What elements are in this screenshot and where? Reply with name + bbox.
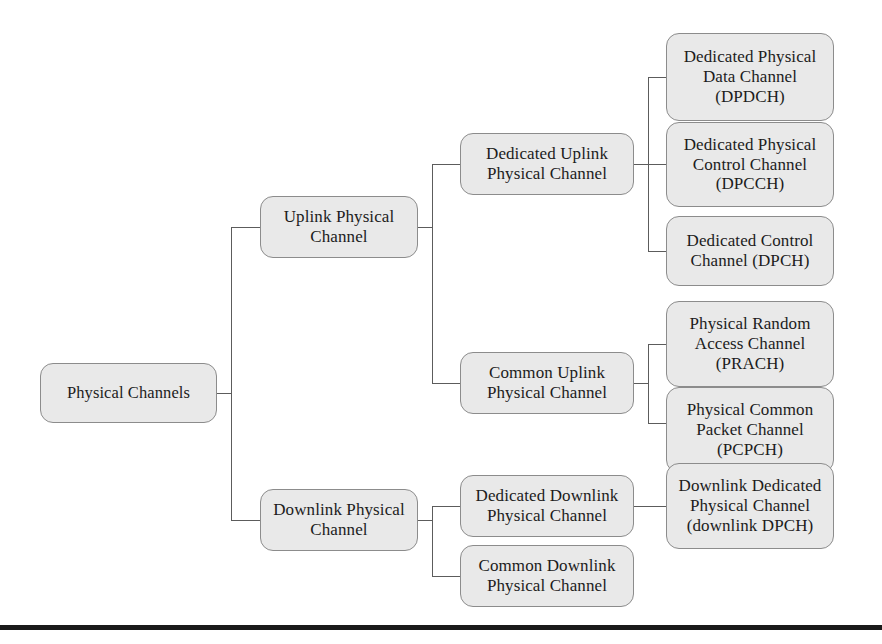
node-pcpch[interactable]: Physical Common Packet Channel (PCPCH): [666, 387, 834, 473]
connector-root-to-downlink: [231, 520, 261, 521]
node-label: Dedicated Physical Control Channel (DPCC…: [684, 135, 817, 194]
node-label: Downlink Physical Channel: [273, 500, 405, 539]
bottom-divider: [0, 625, 882, 630]
connector-root-trunk: [231, 227, 232, 521]
node-label: Dedicated Downlink Physical Channel: [476, 486, 619, 525]
connector-common-uplink-trunk: [648, 344, 649, 423]
node-label: Physical Channels: [67, 383, 190, 402]
node-physical-channels[interactable]: Physical Channels: [40, 363, 217, 423]
node-uplink-physical-channel[interactable]: Uplink Physical Channel: [260, 196, 418, 258]
connector-to-pcpch: [648, 423, 666, 424]
connector-root-to-uplink: [231, 227, 261, 228]
node-label: Common Downlink Physical Channel: [478, 556, 615, 595]
connector-uplink-to-dedicated: [432, 164, 460, 165]
diagram-canvas: Physical Channels Uplink Physical Channe…: [0, 0, 882, 644]
connector-downlink-trunk: [432, 506, 433, 576]
node-prach[interactable]: Physical Random Access Channel (PRACH): [666, 301, 834, 387]
node-label: Downlink Dedicated Physical Channel (dow…: [679, 476, 822, 535]
node-label: Common Uplink Physical Channel: [487, 363, 607, 402]
connector-uplink-trunk: [432, 164, 433, 383]
node-label: Dedicated Control Channel (DPCH): [687, 231, 814, 270]
node-label: Dedicated Physical Data Channel (DPDCH): [684, 47, 817, 106]
connector-downlink-stub: [417, 520, 433, 521]
connector-uplink-to-common: [432, 383, 460, 384]
connector-uplink-stub: [417, 227, 433, 228]
connector-downlink-to-dedicated: [432, 506, 460, 507]
node-label: Physical Common Packet Channel (PCPCH): [687, 400, 814, 459]
node-downlink-dpch[interactable]: Downlink Dedicated Physical Channel (dow…: [666, 463, 834, 549]
node-label: Uplink Physical Channel: [284, 207, 395, 246]
connector-common-uplink-stub: [633, 383, 649, 384]
node-dpcch[interactable]: Dedicated Physical Control Channel (DPCC…: [666, 122, 834, 207]
connector-root-stub: [216, 393, 232, 394]
connector-to-dpch: [648, 251, 666, 252]
node-dedicated-uplink-physical-channel[interactable]: Dedicated Uplink Physical Channel: [460, 133, 634, 195]
connector-downlink-to-common: [432, 576, 460, 577]
node-common-uplink-physical-channel[interactable]: Common Uplink Physical Channel: [460, 352, 634, 414]
connector-to-prach: [648, 344, 666, 345]
node-downlink-physical-channel[interactable]: Downlink Physical Channel: [260, 489, 418, 551]
connector-to-downlink-dpch: [633, 506, 666, 507]
node-dpch[interactable]: Dedicated Control Channel (DPCH): [666, 216, 834, 286]
node-dpdch[interactable]: Dedicated Physical Data Channel (DPDCH): [666, 33, 834, 121]
node-common-downlink-physical-channel[interactable]: Common Downlink Physical Channel: [460, 545, 634, 607]
connector-dedicated-uplink-stub: [633, 164, 649, 165]
node-label: Physical Random Access Channel (PRACH): [690, 314, 811, 373]
node-label: Dedicated Uplink Physical Channel: [486, 144, 608, 183]
node-dedicated-downlink-physical-channel[interactable]: Dedicated Downlink Physical Channel: [460, 475, 634, 537]
connector-to-dpcch: [648, 164, 666, 165]
connector-to-dpdch: [648, 77, 666, 78]
